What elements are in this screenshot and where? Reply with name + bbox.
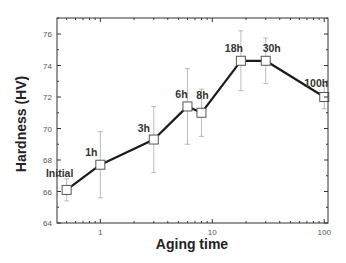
y-tick-label: 72 xyxy=(43,93,52,102)
point-label: 30h xyxy=(263,42,281,54)
data-markers xyxy=(62,56,329,194)
y-tick-label: 64 xyxy=(43,219,52,228)
data-marker xyxy=(261,56,270,65)
x-tick-label: 1 xyxy=(98,228,103,237)
y-tick-labels: 64666870727476 xyxy=(43,30,52,228)
data-marker xyxy=(197,108,206,117)
point-label: 100h xyxy=(304,77,328,89)
hardness-vs-aging-chart: Initial1h3h6h8h18h30h100h 64666870727476… xyxy=(0,0,346,263)
data-line xyxy=(67,61,325,190)
error-bars xyxy=(64,31,327,201)
point-label: Initial xyxy=(46,167,74,179)
data-marker xyxy=(183,102,192,111)
data-marker xyxy=(96,160,105,169)
y-axis-title: Hardness (HV) xyxy=(13,76,29,172)
y-tick-label: 66 xyxy=(43,188,52,197)
data-marker xyxy=(236,56,245,65)
point-label: 6h xyxy=(175,88,187,100)
y-tick-label: 68 xyxy=(43,156,52,165)
y-tick-label: 76 xyxy=(43,30,52,39)
x-axis-title: Aging time xyxy=(156,236,229,252)
point-label: 1h xyxy=(85,146,97,158)
point-label: 18h xyxy=(225,42,243,54)
x-tick-label: 100 xyxy=(318,228,332,237)
y-tick-label: 74 xyxy=(43,62,52,71)
point-label: 8h xyxy=(196,89,208,101)
axis-ticks xyxy=(57,18,328,223)
plot-frame xyxy=(57,18,328,223)
data-marker xyxy=(149,135,158,144)
point-label: 3h xyxy=(138,122,150,134)
y-tick-label: 70 xyxy=(43,125,52,134)
data-marker xyxy=(62,185,71,194)
